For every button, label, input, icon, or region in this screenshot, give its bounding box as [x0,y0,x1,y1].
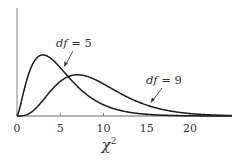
x-tick-label: 10 [97,122,111,135]
series-df-5-curve [17,55,232,116]
x-tick-label: 20 [183,122,197,135]
x-tick-labels: 05101520 [14,122,198,135]
annotation-df-9: df = 9 [146,73,182,87]
chi-square-chart: 05101520 df = 5 df = 9 χ2 [0,0,243,162]
annotation-df-5-arrowhead-icon [64,62,68,68]
annotation-df-5-arrow-line [66,51,73,64]
x-tick-label: 0 [14,122,21,135]
series-df-9-curve [17,75,232,116]
annotation-df-9-arrow-line [153,88,162,100]
chart-svg: 05101520 df = 5 df = 9 χ2 [0,0,243,162]
x-tick-label: 15 [140,122,154,135]
x-tick-label: 5 [57,122,64,135]
x-axis-label: χ2 [101,136,117,154]
annotation-df-5: df = 5 [56,36,92,50]
